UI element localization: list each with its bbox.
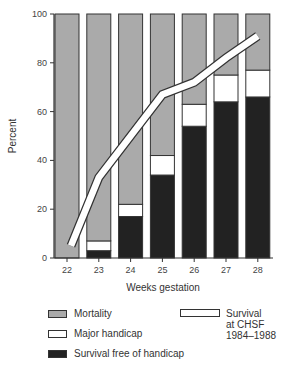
x-tick-label: 24 <box>126 265 136 275</box>
bar-segment <box>214 75 238 102</box>
bar-segment <box>150 175 174 258</box>
legend-item-survival-free: Survival free of handicap <box>48 348 184 359</box>
bar-segment <box>119 204 143 216</box>
bar-segment <box>119 217 143 258</box>
legend-label-survival-free: Survival free of handicap <box>74 348 184 359</box>
legend-survival-line-3: 1984–1988 <box>226 330 276 341</box>
x-tick-label: 22 <box>62 265 72 275</box>
x-axis-title: Weeks gestation <box>126 282 200 293</box>
legend-item-major-handicap: Major handicap <box>48 328 142 339</box>
major-handicap-swatch <box>48 330 67 338</box>
legend-label-survival-line: Survival at CHSF 1984–1988 <box>226 308 276 341</box>
mortality-swatch <box>48 310 67 318</box>
y-axis-title: Percent <box>7 119 18 154</box>
bar-segment <box>119 14 143 204</box>
bar-segment <box>182 104 206 126</box>
y-tick-label: 40 <box>37 155 47 165</box>
legend-item-mortality: Mortality <box>48 308 112 319</box>
x-tick-label: 23 <box>94 265 104 275</box>
y-tick-label: 0 <box>42 253 47 263</box>
survival-free-swatch <box>48 350 67 358</box>
y-tick-label: 60 <box>37 107 47 117</box>
stacked-bar-chart: 22232425262728020406080100 Percent Weeks… <box>0 0 287 300</box>
bar-segment <box>182 126 206 258</box>
x-tick-label: 26 <box>189 265 199 275</box>
bar-segment <box>150 14 174 156</box>
bar-segment <box>55 14 79 258</box>
y-tick-label: 20 <box>37 204 47 214</box>
x-tick-label: 25 <box>157 265 167 275</box>
legend-label-major-handicap: Major handicap <box>74 328 142 339</box>
bar-segment <box>150 156 174 176</box>
bar-segment <box>246 70 270 97</box>
legend-survival-line-2: at CHSF <box>226 319 276 330</box>
y-tick-label: 100 <box>32 9 47 19</box>
y-tick-label: 80 <box>37 58 47 68</box>
bar-segment <box>87 241 111 251</box>
bar-segment <box>182 14 206 104</box>
legend-item-survival-line: Survival at CHSF 1984–1988 <box>180 308 276 341</box>
x-tick-label: 27 <box>221 265 231 275</box>
legend-survival-line-1: Survival <box>226 308 276 319</box>
bar-segment <box>246 97 270 258</box>
x-tick-label: 28 <box>253 265 263 275</box>
bar-segment <box>214 102 238 258</box>
survival-line-swatch <box>180 309 220 317</box>
bar-segment <box>87 251 111 258</box>
legend-label-mortality: Mortality <box>74 308 112 319</box>
